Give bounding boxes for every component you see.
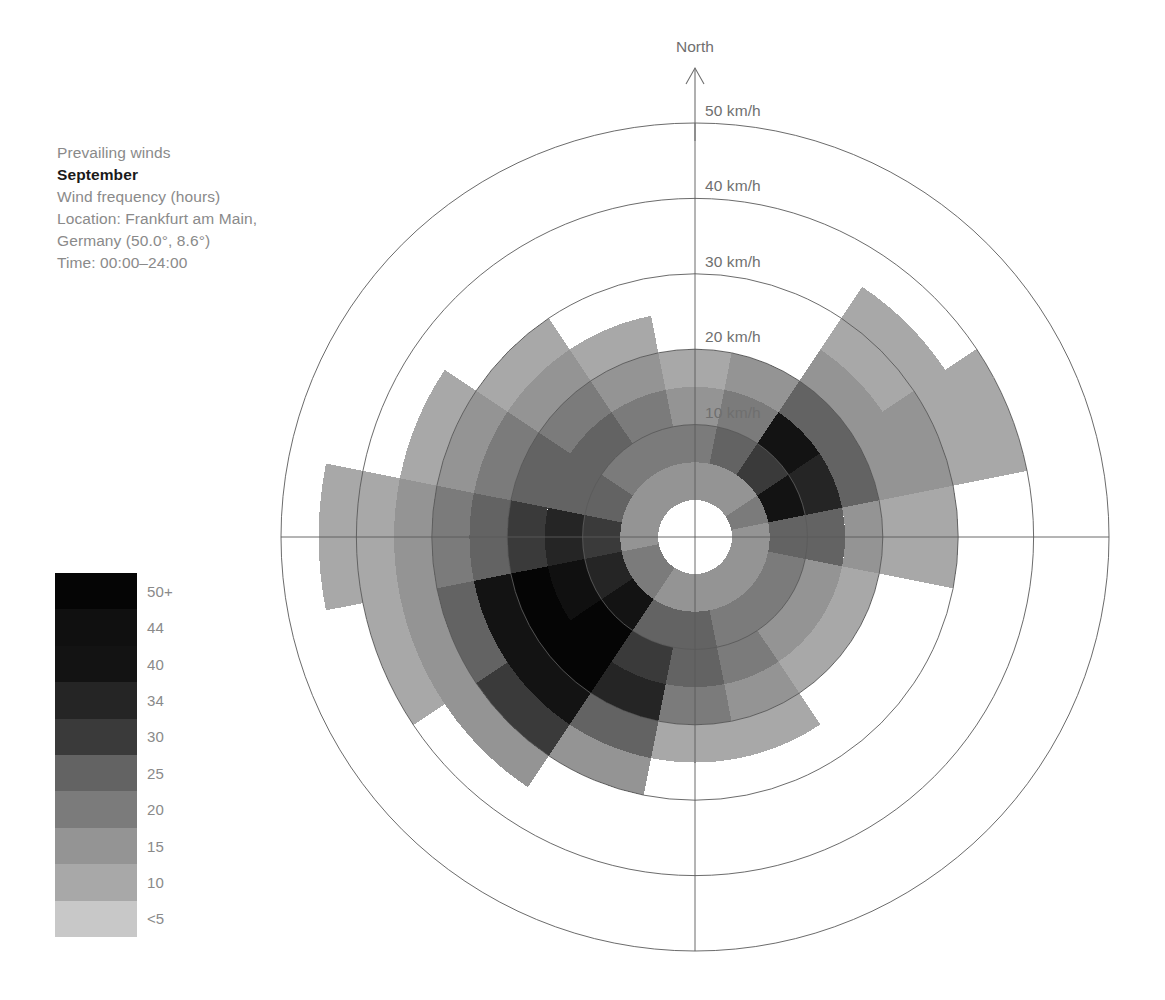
radial-tick-label: 10 km/h xyxy=(705,404,761,421)
radial-tick-label: 20 km/h xyxy=(705,328,761,345)
radial-tick-label: 50 km/h xyxy=(705,102,761,119)
radial-tick-label: 40 km/h xyxy=(705,177,761,194)
wind-rose-sectors xyxy=(319,287,1027,795)
north-label: North xyxy=(676,38,714,55)
wind-rose-grid xyxy=(281,123,1109,951)
radial-tick-label: 30 km/h xyxy=(705,253,761,270)
wind-rose-plot: North10 km/h20 km/h30 km/h40 km/h50 km/h xyxy=(0,0,1165,1000)
